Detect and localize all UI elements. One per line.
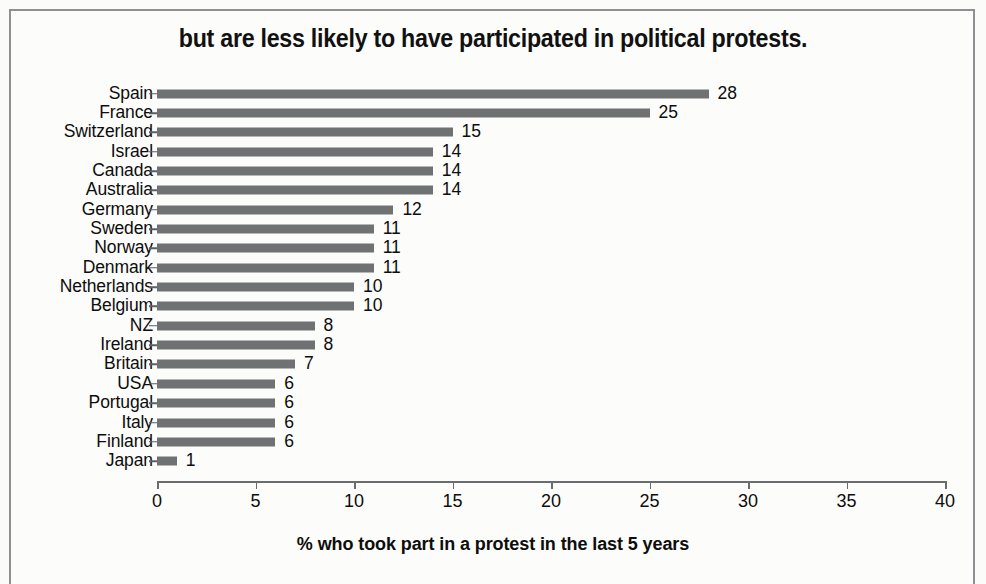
bar-value-label: 11 xyxy=(383,220,401,238)
bar xyxy=(157,283,354,292)
x-axis-tick-label: 15 xyxy=(442,492,462,510)
x-axis-tick xyxy=(945,481,947,489)
y-axis-tick xyxy=(149,151,157,153)
bar-value-label: 6 xyxy=(284,433,294,451)
bar-row: Switzerland15 xyxy=(0,123,986,142)
bar xyxy=(157,147,433,156)
bar-row: Ireland8 xyxy=(0,335,986,354)
bar-row: Britain7 xyxy=(0,355,986,374)
category-label: Portugal xyxy=(89,394,153,412)
bar-row: Portugal6 xyxy=(0,394,986,413)
x-axis-tick xyxy=(650,481,652,489)
y-axis-tick xyxy=(149,383,157,385)
figure-root: but are less likely to have participated… xyxy=(0,0,986,584)
bar-value-label: 28 xyxy=(718,85,737,103)
y-axis-tick xyxy=(149,402,157,404)
bar xyxy=(157,263,374,272)
bar-row: Denmark11 xyxy=(0,258,986,277)
bar-value-label: 25 xyxy=(659,104,678,122)
category-label: Denmark xyxy=(83,259,153,277)
y-axis-tick xyxy=(149,344,157,346)
y-axis-tick xyxy=(149,190,157,192)
category-label: Norway xyxy=(94,240,153,258)
bar-value-label: 15 xyxy=(462,124,481,142)
x-axis-tick-label: 25 xyxy=(639,492,659,510)
bar-row: Belgium10 xyxy=(0,297,986,316)
bar xyxy=(157,302,354,311)
bar xyxy=(157,321,315,330)
bar xyxy=(157,225,374,234)
bar-value-label: 14 xyxy=(442,143,461,161)
category-label: Belgium xyxy=(90,298,153,316)
x-axis-tick xyxy=(354,481,356,489)
y-axis-tick xyxy=(149,325,157,327)
category-label: Sweden xyxy=(90,220,153,238)
bar-row: Sweden11 xyxy=(0,219,986,238)
category-label: France xyxy=(99,104,153,122)
y-axis-tick xyxy=(149,112,157,114)
bar xyxy=(157,109,650,118)
bar xyxy=(157,418,275,427)
bar-row: Canada14 xyxy=(0,161,986,180)
y-axis-tick xyxy=(149,267,157,269)
x-axis-tick-label: 30 xyxy=(738,492,758,510)
bar-row: Norway11 xyxy=(0,239,986,258)
category-label: Israel xyxy=(111,143,153,161)
bar-row: Japan1 xyxy=(0,452,986,471)
category-label: USA xyxy=(117,375,153,393)
bar-value-label: 6 xyxy=(284,394,294,412)
category-label: Australia xyxy=(86,182,153,200)
bar-row: Finland6 xyxy=(0,432,986,451)
bar-rows: Spain28France25Switzerland15Israel14Cana… xyxy=(0,84,986,471)
y-axis-tick xyxy=(149,248,157,250)
category-label: Spain xyxy=(109,85,153,103)
y-axis-tick xyxy=(149,170,157,172)
category-label: Finland xyxy=(96,433,153,451)
bar-row: Israel14 xyxy=(0,142,986,161)
y-axis-tick xyxy=(149,132,157,134)
bar-value-label: 10 xyxy=(363,298,382,316)
bar xyxy=(157,379,275,388)
x-axis-tick xyxy=(551,481,553,489)
x-axis-tick xyxy=(847,481,849,489)
bar-row: France25 xyxy=(0,103,986,122)
bar xyxy=(157,399,275,408)
y-axis-tick xyxy=(149,93,157,95)
bar-row: Netherlands10 xyxy=(0,277,986,296)
bar-row: NZ8 xyxy=(0,316,986,335)
bar-row: Germany12 xyxy=(0,200,986,219)
bar xyxy=(157,89,709,98)
bar xyxy=(157,167,433,176)
category-label: Canada xyxy=(92,162,153,180)
bar-value-label: 10 xyxy=(363,278,382,296)
x-axis-tick-label: 5 xyxy=(250,492,260,510)
bar-value-label: 14 xyxy=(442,162,461,180)
bar xyxy=(157,186,433,195)
category-label: Britain xyxy=(104,356,153,374)
bar-value-label: 11 xyxy=(383,259,401,277)
y-axis-tick xyxy=(149,306,157,308)
x-axis-title: % who took part in a protest in the last… xyxy=(0,534,986,555)
bar-row: Italy6 xyxy=(0,413,986,432)
x-axis-tick-label: 10 xyxy=(344,492,364,510)
bar-row: Spain28 xyxy=(0,84,986,103)
x-axis-tick-label: 35 xyxy=(836,492,856,510)
category-label: Switzerland xyxy=(64,124,153,142)
category-label: Japan xyxy=(106,452,153,470)
y-axis-tick xyxy=(149,209,157,211)
x-axis-tick xyxy=(157,481,159,489)
y-axis-tick xyxy=(149,441,157,443)
bar-value-label: 8 xyxy=(324,336,334,354)
y-axis-tick xyxy=(149,422,157,424)
category-label: Ireland xyxy=(100,336,153,354)
bar-value-label: 6 xyxy=(284,414,294,432)
y-axis-tick xyxy=(149,228,157,230)
y-axis-tick xyxy=(149,460,157,462)
bar xyxy=(157,128,453,137)
x-axis-tick xyxy=(256,481,258,489)
bar-value-label: 11 xyxy=(383,240,401,258)
category-label: Germany xyxy=(82,201,153,219)
bar-value-label: 12 xyxy=(402,201,421,219)
x-axis-tick-label: 20 xyxy=(541,492,561,510)
x-axis-tick-label: 40 xyxy=(935,492,955,510)
